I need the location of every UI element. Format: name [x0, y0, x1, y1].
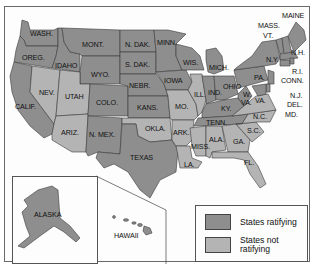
legend-label-not-ratifying: States not ratifying: [240, 236, 279, 254]
label-pa: PA.: [254, 74, 265, 81]
state-maryland: [252, 84, 266, 96]
label-nebr: NEBR.: [129, 82, 150, 89]
label-miss: MISS.: [191, 143, 210, 150]
legend-label-ratifying: States ratifying: [240, 218, 297, 227]
label-ariz: ARIZ.: [61, 129, 79, 136]
label-la: LA.: [184, 161, 195, 168]
label-maine: MAINE: [282, 12, 304, 19]
state-florida: [212, 152, 266, 188]
label-oreg: OREG.: [22, 54, 45, 61]
legend-swatch-not-ratifying: [205, 237, 231, 253]
label-va: VA.: [255, 97, 266, 104]
label-wash: WASH.: [30, 30, 53, 37]
label-ala: ALA.: [209, 136, 224, 143]
label-ri: R.I.: [292, 68, 303, 75]
label-calif: CALIF.: [15, 103, 36, 110]
label-ga: GA.: [233, 138, 245, 145]
label-md: MD.: [285, 111, 298, 118]
label-nev: NEV.: [39, 89, 55, 96]
label-ohio: OHIO: [223, 83, 241, 90]
label-tenn: TENN.: [206, 119, 227, 126]
label-wis: WIS.: [183, 59, 198, 66]
label-sdak: S. DAK.: [125, 61, 150, 68]
label-nmex: N. MEX.: [89, 131, 115, 138]
label-mont: MONT.: [82, 41, 104, 48]
label-utah: UTAH: [65, 93, 84, 100]
label-colo: COLO.: [96, 99, 118, 106]
label-ny: N.Y.: [266, 56, 279, 63]
label-ndak: N. DAK.: [125, 41, 150, 48]
label-okla: OKLA.: [145, 125, 166, 132]
state-rhode-island: [290, 58, 294, 64]
label-texas: TEXAS: [130, 154, 153, 161]
state-new-jersey: [268, 70, 274, 84]
label-hawaii: HAWAII: [114, 232, 138, 239]
label-sc: S.C.: [247, 127, 261, 134]
label-ill: ILL.: [194, 91, 206, 98]
legend-label-not-ratifying-line2: ratifying: [240, 245, 279, 254]
label-mass: MASS.: [258, 22, 280, 29]
label-conn: CONN.: [281, 77, 304, 84]
label-wva-2: VA.: [241, 99, 252, 106]
label-wyo: WYO.: [91, 71, 110, 78]
label-nj: N.J.: [290, 92, 302, 99]
label-del: DEL.: [287, 101, 303, 108]
legend-swatch-ratifying: [205, 214, 231, 230]
label-mo: MO.: [175, 103, 188, 110]
label-kans: KANS.: [137, 104, 158, 111]
label-vt: VT.: [263, 32, 273, 39]
label-nc: N.C.: [253, 113, 267, 120]
legend: States ratifying States not ratifying: [195, 205, 308, 262]
alaska-inset: [12, 176, 98, 264]
state-delaware: [266, 84, 270, 92]
label-fla: FL.: [244, 159, 254, 166]
label-ky: KY.: [221, 105, 231, 112]
label-idaho: IDAHO: [55, 62, 77, 69]
label-minn: MINN.: [157, 39, 177, 46]
label-mich: MICH.: [209, 64, 229, 71]
state-connecticut: [280, 60, 290, 66]
label-alaska: ALASKA: [34, 211, 61, 218]
label-ark: ARK.: [173, 129, 189, 136]
label-ind: IND.: [208, 89, 222, 96]
state-mississippi: [190, 126, 206, 156]
label-iowa: IOWA: [164, 77, 183, 84]
label-nh: N.H.: [291, 49, 305, 56]
